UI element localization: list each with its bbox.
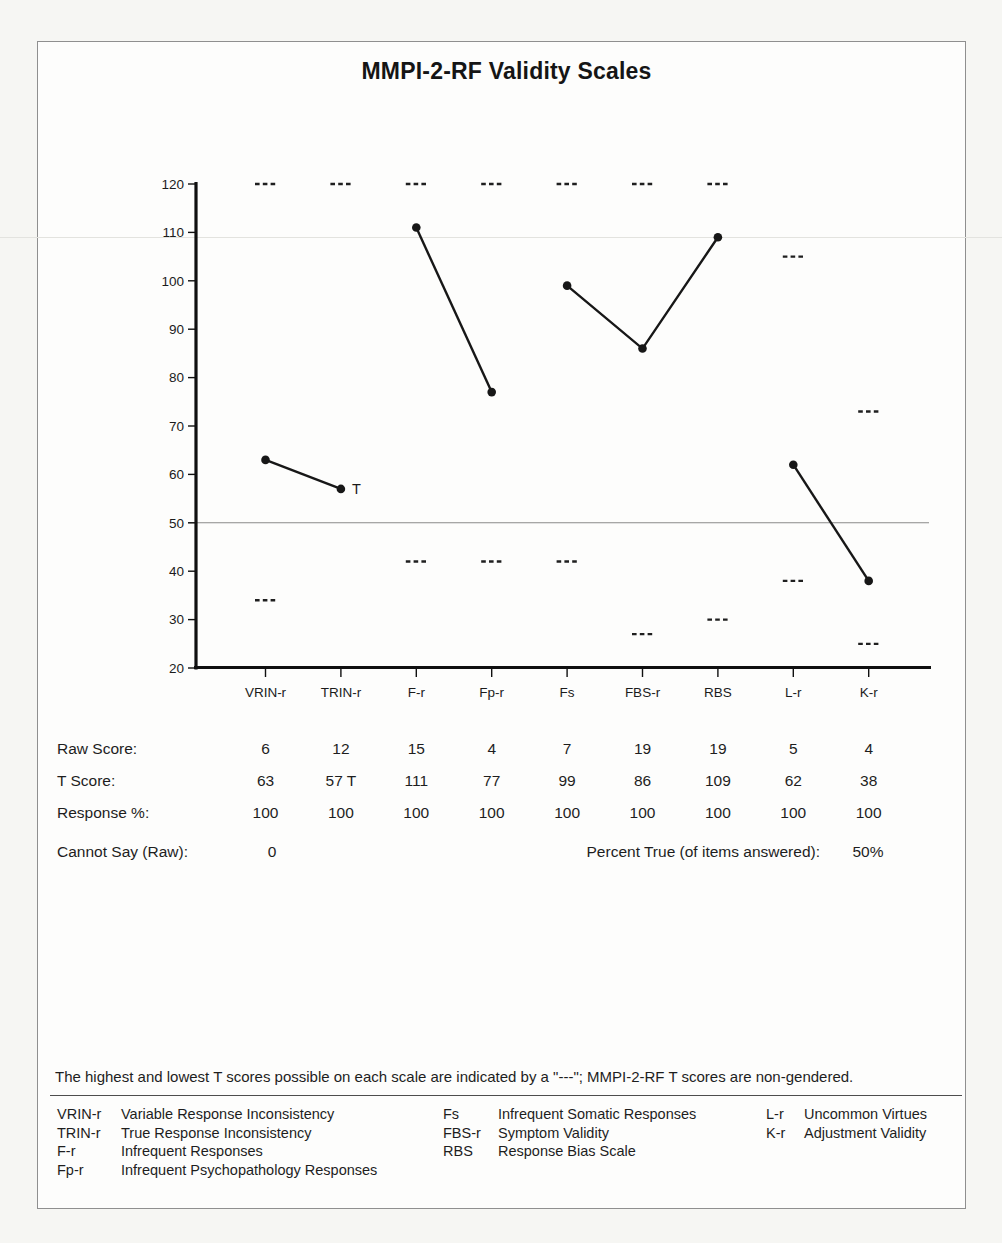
score-row-label: T Score: bbox=[57, 772, 115, 790]
legend-abbr: L-r bbox=[766, 1105, 804, 1124]
x-label-VRIN-r: VRIN-r bbox=[245, 685, 287, 700]
legend-abbr: Fs bbox=[443, 1105, 498, 1124]
x-label-K-r: K-r bbox=[860, 685, 879, 700]
score-cell-Fp-r: 4 bbox=[454, 740, 530, 758]
data-point-VRIN-r bbox=[261, 456, 270, 465]
cannot-say-value: 0 bbox=[234, 843, 310, 861]
x-label-Fp-r: Fp-r bbox=[479, 685, 504, 700]
legend-column-1: VRIN-rVariable Response InconsistencyTRI… bbox=[57, 1105, 377, 1180]
y-tick-label: 80 bbox=[169, 370, 184, 385]
score-cell-TRIN-r: 100 bbox=[303, 804, 379, 822]
profile-segment bbox=[266, 460, 341, 489]
legend-item-Fs: FsInfrequent Somatic Responses bbox=[443, 1105, 696, 1124]
legend-column-3: L-rUncommon VirtuesK-rAdjustment Validit… bbox=[766, 1105, 927, 1142]
report-canvas: MMPI-2-RF Validity Scales 12011010090807… bbox=[0, 0, 1002, 1243]
legend-abbr: K-r bbox=[766, 1124, 804, 1143]
legend-name: Response Bias Scale bbox=[498, 1142, 636, 1161]
score-cell-RBS: 19 bbox=[680, 740, 756, 758]
profile-segment bbox=[416, 228, 491, 393]
legend-name: Infrequent Somatic Responses bbox=[498, 1105, 696, 1124]
y-tick-label: 30 bbox=[169, 612, 184, 627]
score-cell-Fs: 99 bbox=[529, 772, 605, 790]
cannot-say-label: Cannot Say (Raw): bbox=[57, 843, 188, 861]
y-tick-label: 20 bbox=[169, 661, 184, 676]
x-label-TRIN-r: TRIN-r bbox=[321, 685, 362, 700]
legend-item-FBS-r: FBS-rSymptom Validity bbox=[443, 1124, 696, 1143]
data-point-K-r bbox=[864, 577, 873, 586]
legend-item-TRIN-r: TRIN-rTrue Response Inconsistency bbox=[57, 1124, 377, 1143]
score-cell-VRIN-r: 63 bbox=[228, 772, 304, 790]
profile-segment bbox=[567, 237, 718, 348]
score-row-label: Response %: bbox=[57, 804, 149, 822]
score-cell-Fp-r: 100 bbox=[454, 804, 530, 822]
legend-item-VRIN-r: VRIN-rVariable Response Inconsistency bbox=[57, 1105, 377, 1124]
footnote-divider bbox=[50, 1095, 962, 1096]
y-tick-label: 50 bbox=[169, 516, 184, 531]
score-row-label: Raw Score: bbox=[57, 740, 137, 758]
score-cell-L-r: 62 bbox=[755, 772, 831, 790]
x-label-FBS-r: FBS-r bbox=[625, 685, 661, 700]
data-point-Fp-r bbox=[487, 388, 496, 397]
legend-abbr: VRIN-r bbox=[57, 1105, 121, 1124]
x-label-L-r: L-r bbox=[785, 685, 802, 700]
legend-name: Infrequent Psychopathology Responses bbox=[121, 1161, 377, 1180]
y-tick-label: 40 bbox=[169, 564, 184, 579]
percent-true-value: 50% bbox=[830, 843, 906, 861]
point-suffix-TRIN-r: T bbox=[352, 481, 361, 497]
legend-name: Uncommon Virtues bbox=[804, 1105, 927, 1124]
y-tick-label: 120 bbox=[161, 177, 184, 192]
legend-column-2: FsInfrequent Somatic ResponsesFBS-rSympt… bbox=[443, 1105, 696, 1161]
legend-name: Symptom Validity bbox=[498, 1124, 609, 1143]
score-cell-Fs: 100 bbox=[529, 804, 605, 822]
score-cell-K-r: 38 bbox=[831, 772, 907, 790]
score-cell-FBS-r: 100 bbox=[605, 804, 681, 822]
legend-abbr: Fp-r bbox=[57, 1161, 121, 1180]
y-tick-label: 100 bbox=[161, 274, 184, 289]
y-tick-label: 110 bbox=[162, 225, 184, 240]
y-tick-label: 70 bbox=[169, 419, 184, 434]
score-cell-L-r: 100 bbox=[755, 804, 831, 822]
x-label-Fs: Fs bbox=[560, 685, 575, 700]
legend-name: True Response Inconsistency bbox=[121, 1124, 311, 1143]
y-tick-label: 90 bbox=[169, 322, 184, 337]
legend-abbr: FBS-r bbox=[443, 1124, 498, 1143]
score-cell-F-r: 100 bbox=[378, 804, 454, 822]
legend-name: Adjustment Validity bbox=[804, 1124, 926, 1143]
score-cell-VRIN-r: 100 bbox=[228, 804, 304, 822]
score-cell-F-r: 111 bbox=[378, 772, 454, 790]
score-cell-FBS-r: 86 bbox=[605, 772, 681, 790]
legend-name: Variable Response Inconsistency bbox=[121, 1105, 334, 1124]
score-cell-RBS: 100 bbox=[680, 804, 756, 822]
legend-item-Fp-r: Fp-rInfrequent Psychopathology Responses bbox=[57, 1161, 377, 1180]
score-cell-TRIN-r: 12 bbox=[303, 740, 379, 758]
score-cell-F-r: 15 bbox=[378, 740, 454, 758]
score-cell-L-r: 5 bbox=[755, 740, 831, 758]
y-tick-label: 60 bbox=[169, 467, 184, 482]
validity-scales-chart: 1201101009080706050403020VRIN-rTRIN-rF-r… bbox=[0, 0, 1002, 720]
legend-abbr: F-r bbox=[57, 1142, 121, 1161]
data-point-RBS bbox=[714, 233, 723, 242]
legend-abbr: RBS bbox=[443, 1142, 498, 1161]
score-cell-FBS-r: 19 bbox=[605, 740, 681, 758]
data-point-L-r bbox=[789, 460, 798, 469]
score-cell-K-r: 100 bbox=[831, 804, 907, 822]
legend-name: Infrequent Responses bbox=[121, 1142, 263, 1161]
footnote-text: The highest and lowest T scores possible… bbox=[55, 1068, 960, 1085]
data-point-F-r bbox=[412, 223, 421, 232]
data-point-TRIN-r bbox=[337, 485, 346, 494]
legend-item-L-r: L-rUncommon Virtues bbox=[766, 1105, 927, 1124]
data-point-FBS-r bbox=[638, 344, 647, 353]
score-cell-Fp-r: 77 bbox=[454, 772, 530, 790]
score-cell-VRIN-r: 6 bbox=[228, 740, 304, 758]
score-cell-Fs: 7 bbox=[529, 740, 605, 758]
legend-item-K-r: K-rAdjustment Validity bbox=[766, 1124, 927, 1143]
legend-abbr: TRIN-r bbox=[57, 1124, 121, 1143]
legend-item-RBS: RBSResponse Bias Scale bbox=[443, 1142, 696, 1161]
data-point-Fs bbox=[563, 281, 572, 290]
x-label-RBS: RBS bbox=[704, 685, 732, 700]
score-cell-K-r: 4 bbox=[831, 740, 907, 758]
score-cell-TRIN-r: 57 T bbox=[303, 772, 379, 790]
percent-true-label: Percent True (of items answered): bbox=[536, 843, 820, 861]
x-label-F-r: F-r bbox=[408, 685, 426, 700]
score-cell-RBS: 109 bbox=[680, 772, 756, 790]
